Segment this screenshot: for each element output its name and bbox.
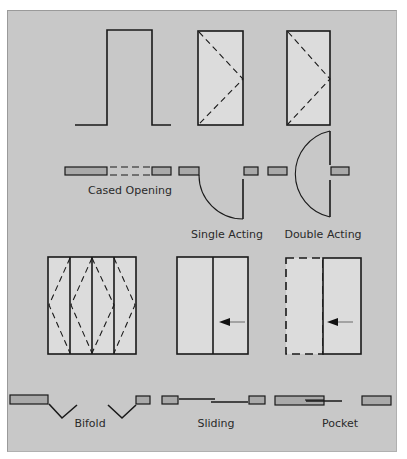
single-acting-plan (179, 167, 258, 219)
double-acting-elevation (287, 31, 330, 125)
label-sliding: Sliding (197, 417, 234, 430)
label-double-acting: Double Acting (284, 228, 361, 241)
label-pocket: Pocket (322, 417, 358, 430)
single-acting-elevation (198, 31, 243, 125)
label-single-acting: Single Acting (191, 228, 263, 241)
sliding-elevation (177, 257, 248, 354)
cased-opening-plan (65, 167, 171, 175)
cased-opening-elevation (75, 30, 171, 125)
pocket-plan (275, 396, 391, 405)
sliding-plan (162, 396, 265, 404)
label-cased-opening: Cased Opening (88, 184, 172, 197)
double-acting-plan (268, 131, 349, 217)
label-bifold: Bifold (74, 417, 105, 430)
bifold-plan (10, 395, 150, 418)
bifold-elevation (48, 257, 136, 354)
pocket-elevation (286, 258, 361, 354)
